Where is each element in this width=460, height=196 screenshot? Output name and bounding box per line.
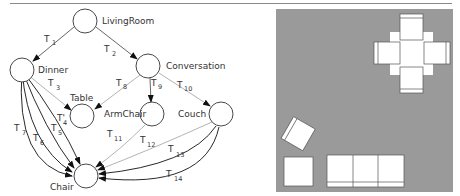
edge-sub-t14: 14 bbox=[174, 175, 182, 183]
edge-label-t7: T bbox=[13, 123, 20, 133]
edge-sub-t3: 3 bbox=[56, 84, 60, 92]
node-couch bbox=[209, 102, 233, 126]
edge-label-t9: T bbox=[150, 78, 157, 88]
edge-sub-t2: 2 bbox=[112, 50, 116, 58]
label-table: Table bbox=[69, 93, 94, 103]
edge-label-t3: T bbox=[47, 78, 54, 88]
dining-chair-bottom bbox=[400, 67, 423, 93]
edge-sub-t4: 4 bbox=[63, 119, 67, 127]
edge-sub-t11: 11 bbox=[114, 135, 122, 143]
side-table bbox=[284, 157, 313, 186]
graph-edges bbox=[21, 27, 219, 180]
edge-sub-t5: 5 bbox=[58, 129, 62, 137]
edge-label-t11: T bbox=[106, 129, 113, 139]
edge-label-t1: T bbox=[43, 34, 50, 44]
node-livingroom bbox=[73, 9, 97, 33]
edge-sub-t13: 13 bbox=[176, 151, 184, 159]
node-chair bbox=[74, 164, 98, 188]
edge-label-t5: T bbox=[50, 123, 57, 133]
edge-sub-t7: 7 bbox=[22, 129, 26, 137]
label-livingroom: LivingRoom bbox=[102, 16, 154, 26]
floor-plan bbox=[276, 9, 453, 192]
dining-chair-left bbox=[374, 42, 400, 64]
node-conversation bbox=[136, 54, 160, 78]
edge-label-t14: T bbox=[165, 169, 172, 179]
edge-sub-t8: 8 bbox=[123, 83, 127, 91]
label-armchair: ArmChair bbox=[104, 109, 146, 119]
edge-sub-t6: 6 bbox=[40, 139, 44, 147]
node-table bbox=[70, 104, 94, 128]
edge-sub-t1: 1 bbox=[52, 39, 56, 47]
edge-t2 bbox=[96, 27, 137, 59]
edge-label-t13: T bbox=[167, 144, 174, 154]
label-couch: Couch bbox=[178, 109, 206, 119]
label-conversation: Conversation bbox=[166, 61, 226, 71]
edge-label-t6: T bbox=[32, 133, 39, 143]
edge-label-t12: T bbox=[139, 135, 146, 145]
dining-chair-right bbox=[424, 42, 450, 64]
label-chair: Chair bbox=[50, 182, 74, 192]
edge-label-t2: T bbox=[103, 44, 110, 54]
edge-t13 bbox=[99, 126, 216, 174]
node-dinner bbox=[10, 58, 34, 82]
dining-chair-top bbox=[400, 14, 423, 40]
edge-sub-t10: 10 bbox=[184, 85, 192, 93]
edge-sub-t12: 12 bbox=[147, 141, 155, 149]
edge-label-t8: T bbox=[115, 78, 122, 88]
edge-label-t10: T bbox=[176, 80, 183, 90]
couch bbox=[327, 155, 404, 187]
scene-graph-diagram: LivingRoom Dinner Conversation Table Arm… bbox=[0, 0, 460, 196]
label-dinner: Dinner bbox=[38, 65, 68, 75]
edge-sub-t9: 9 bbox=[158, 83, 162, 91]
